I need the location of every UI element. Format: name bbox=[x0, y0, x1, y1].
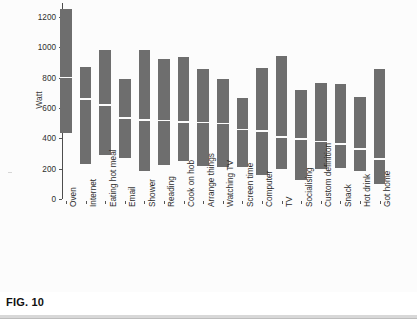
bar-group[interactable] bbox=[354, 0, 366, 292]
bar-range-box[interactable] bbox=[256, 68, 268, 175]
bar-group[interactable] bbox=[119, 0, 131, 292]
bar-group[interactable] bbox=[158, 0, 170, 292]
bar-median-line bbox=[80, 98, 92, 100]
x-axis-tick-label: Arrange things bbox=[207, 153, 216, 207]
bar-range-box[interactable] bbox=[178, 57, 190, 161]
x-axis-tick-mark bbox=[282, 201, 283, 204]
bar-group[interactable] bbox=[99, 0, 111, 292]
bar-range-box[interactable] bbox=[80, 67, 92, 164]
x-axis-tick-mark bbox=[242, 201, 243, 204]
bar-median-line bbox=[256, 130, 268, 132]
x-axis-tick-label: Custom definition bbox=[324, 143, 333, 207]
figure-container: Watt 020040060080010001200 OvenInternetE… bbox=[0, 0, 417, 321]
scan-speck bbox=[8, 172, 12, 173]
x-axis-tick-mark bbox=[203, 201, 204, 204]
bar-group[interactable] bbox=[217, 0, 229, 292]
bar-median-line bbox=[335, 143, 347, 145]
bar-range-box[interactable] bbox=[237, 98, 249, 167]
bar-median-line bbox=[60, 77, 72, 79]
bar-group[interactable] bbox=[237, 0, 249, 292]
x-axis-tick-mark bbox=[144, 201, 145, 204]
x-axis-tick-mark bbox=[340, 201, 341, 204]
x-axis-tick-mark bbox=[86, 201, 87, 204]
x-axis-tick-label: Oven bbox=[69, 187, 78, 207]
bar-group[interactable] bbox=[178, 0, 190, 292]
x-axis-tick-label: Cook on hob bbox=[187, 160, 196, 207]
bar-range-box[interactable] bbox=[60, 9, 72, 132]
x-axis-tick-mark bbox=[301, 201, 302, 204]
bar-median-line bbox=[295, 138, 307, 140]
x-axis-tick-label: Screen time bbox=[246, 163, 255, 207]
bar-range-box[interactable] bbox=[217, 79, 229, 167]
x-axis-tick-label: Shower bbox=[148, 179, 157, 207]
x-axis-tick-mark bbox=[223, 201, 224, 204]
bar-median-line bbox=[237, 129, 249, 131]
x-axis-tick-mark bbox=[380, 201, 381, 204]
bar-group[interactable] bbox=[276, 0, 288, 292]
bar-group[interactable] bbox=[197, 0, 209, 292]
x-axis-tick-mark bbox=[164, 201, 165, 204]
caption-divider-dark bbox=[0, 318, 417, 319]
bar-median-line bbox=[354, 148, 366, 150]
bar-median-line bbox=[276, 136, 288, 138]
bar-group[interactable] bbox=[80, 0, 92, 292]
x-axis-tick-label: Socialising bbox=[305, 167, 314, 207]
x-axis-tick-label: Internet bbox=[89, 179, 98, 207]
x-axis-tick-mark bbox=[321, 201, 322, 204]
x-axis-tick-label: Email bbox=[128, 186, 137, 207]
x-axis-tick-label: Eating hot meal bbox=[109, 149, 118, 207]
bar-median-line bbox=[99, 104, 111, 106]
bar-range-box[interactable] bbox=[335, 84, 347, 168]
bar-median-line bbox=[119, 117, 131, 119]
chart-plot-area: Watt 020040060080010001200 OvenInternetE… bbox=[0, 0, 417, 292]
x-axis-tick-mark bbox=[360, 201, 361, 204]
bar-range-box[interactable] bbox=[276, 56, 288, 169]
x-axis-tick-label: Snack bbox=[344, 184, 353, 207]
bar-range-box[interactable] bbox=[197, 69, 209, 166]
bar-range-box[interactable] bbox=[139, 50, 151, 171]
bars-layer: OvenInternetEating hot mealEmailShowerRe… bbox=[0, 0, 417, 292]
bar-range-box[interactable] bbox=[158, 59, 170, 166]
bar-range-box[interactable] bbox=[354, 97, 366, 171]
x-axis-tick-label: Computer bbox=[265, 171, 274, 207]
bar-median-line bbox=[374, 158, 386, 160]
bar-median-line bbox=[197, 122, 209, 124]
bar-range-box[interactable] bbox=[99, 50, 111, 155]
bar-range-box[interactable] bbox=[374, 69, 386, 184]
x-axis-tick-mark bbox=[184, 201, 185, 204]
x-axis-tick-mark bbox=[66, 201, 67, 204]
bar-group[interactable] bbox=[256, 0, 268, 292]
bar-group[interactable] bbox=[374, 0, 386, 292]
bar-median-line bbox=[139, 119, 151, 121]
x-axis-tick-label: Hot drink bbox=[363, 174, 372, 207]
bar-group[interactable] bbox=[60, 0, 72, 292]
x-axis-tick-label: TV bbox=[285, 196, 294, 207]
bar-median-line bbox=[217, 123, 229, 125]
bar-group[interactable] bbox=[139, 0, 151, 292]
figure-caption-band: FIG. 10 bbox=[0, 292, 417, 321]
x-axis-tick-label: Reading bbox=[167, 176, 176, 207]
x-axis-tick-mark bbox=[125, 201, 126, 204]
x-axis-tick-mark bbox=[105, 201, 106, 204]
figure-caption: FIG. 10 bbox=[6, 296, 44, 308]
x-axis-tick-label: Got home bbox=[383, 171, 392, 207]
bar-group[interactable] bbox=[335, 0, 347, 292]
bar-group[interactable] bbox=[295, 0, 307, 292]
x-axis-tick-mark bbox=[262, 201, 263, 204]
bar-median-line bbox=[178, 121, 190, 123]
bar-range-box[interactable] bbox=[119, 79, 131, 158]
x-axis-tick-label: Watching TV bbox=[226, 160, 235, 207]
bar-median-line bbox=[158, 120, 170, 122]
